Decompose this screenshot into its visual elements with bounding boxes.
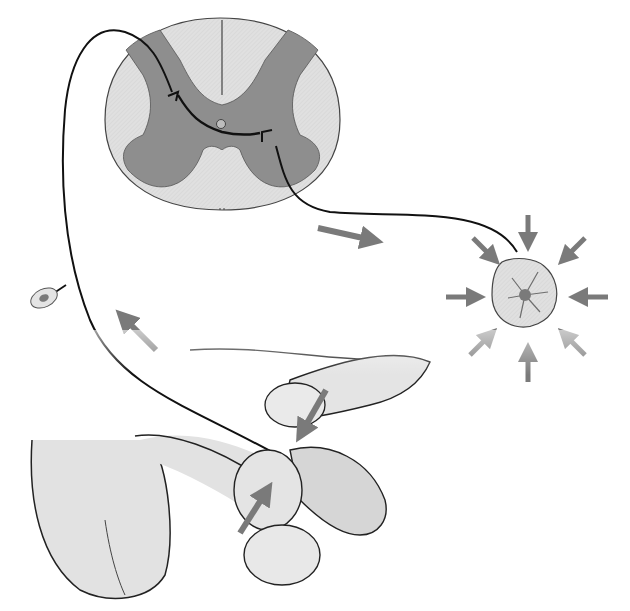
finger-bottom — [244, 525, 320, 585]
efferent-direction-arrow — [318, 228, 372, 240]
central-canal — [217, 120, 226, 129]
spinal-cord-cross-section — [105, 18, 340, 210]
glans — [234, 450, 302, 530]
scrotum — [31, 440, 170, 598]
contracting-muscle — [492, 259, 557, 328]
reflex-diagram — [0, 0, 630, 611]
dorsal-root-ganglion — [28, 284, 61, 312]
diagram-canvas — [0, 0, 630, 611]
